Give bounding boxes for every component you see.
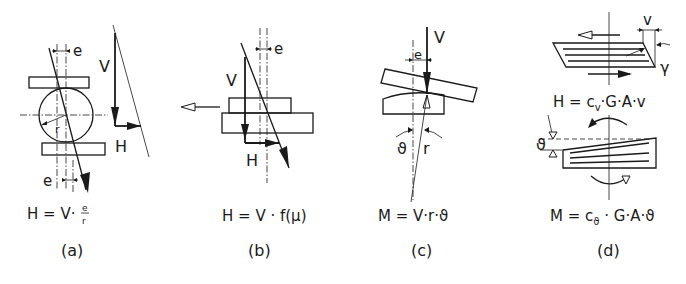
horizontal-force-arrowhead-icon xyxy=(127,122,141,130)
radius-arrowhead xyxy=(41,121,47,125)
label-V: V xyxy=(226,71,237,90)
shear-bottom-arrow-icon xyxy=(618,70,632,78)
label-e: e xyxy=(414,47,422,62)
label-theta: ϑ xyxy=(536,135,546,154)
resultant-arrowhead-icon xyxy=(80,172,90,193)
formula-b: H = V · f(μ) xyxy=(222,207,306,225)
sliding-direction-arrowhead-icon xyxy=(181,103,195,111)
label-gamma: γ xyxy=(660,58,669,77)
bearing-diagram-figure: e e r V H H = V· e r (a) e V xyxy=(0,0,686,284)
panel-c: V e ϑ r M = V·r·ϑ (c) xyxy=(378,27,477,260)
vertical-force-arrowhead-icon xyxy=(241,124,249,140)
rocker-base xyxy=(383,93,444,114)
resultant-force-line xyxy=(49,48,86,190)
formula-a-denominator: r xyxy=(82,216,86,226)
label-e: e xyxy=(274,40,283,58)
label-e-bottom: e xyxy=(43,172,52,190)
caption-a: (a) xyxy=(61,241,83,260)
label-e-top: e xyxy=(73,42,82,60)
label-V: V xyxy=(434,28,445,47)
vertical-force-arrowhead-icon xyxy=(111,107,119,126)
label-H: H xyxy=(115,137,127,156)
formula-d-shear: H = cv·G·A·v xyxy=(553,93,646,113)
shear-top-arrow-icon xyxy=(578,31,592,39)
lower-slide-plate xyxy=(222,113,313,133)
formula-d-rotation: M = cϑ · G·A·ϑ xyxy=(550,207,655,227)
label-r: r xyxy=(55,123,60,136)
caption-b: (b) xyxy=(248,241,271,260)
label-V: V xyxy=(99,57,110,76)
rotation-top-arrow-icon xyxy=(588,118,597,128)
caption-c: (c) xyxy=(411,241,432,260)
panel-a: e e r V H H = V· e r (a) xyxy=(20,25,149,260)
horizontal-force-arrowhead-icon xyxy=(265,139,279,147)
formula-a-lhs: H = V· xyxy=(27,205,75,223)
bottom-plate xyxy=(42,143,105,155)
label-theta: ϑ xyxy=(397,139,407,158)
panel-b: e V H H = V · f(μ) (b) xyxy=(181,28,313,260)
label-H: H xyxy=(246,151,258,170)
label-v: v xyxy=(643,11,652,29)
panel-d: v γ H = cv·G·A·v ϑ M = cϑ · G·A·ϑ (d) xyxy=(536,11,670,260)
caption-d: (d) xyxy=(597,241,620,260)
formula-a-numerator: e xyxy=(82,203,88,213)
label-r: r xyxy=(423,139,430,158)
formula-c: M = V·r·ϑ xyxy=(378,207,448,225)
vertical-force-arrowhead-icon xyxy=(423,72,431,94)
